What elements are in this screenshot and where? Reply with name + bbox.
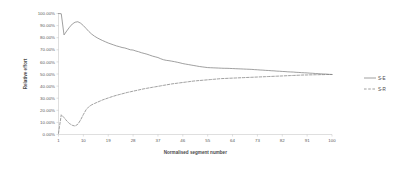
x-tick-label: 10 <box>81 138 86 143</box>
chart-legend: S-ES-R <box>364 76 387 92</box>
y-tick-label: 40.00% <box>40 84 55 89</box>
x-tick-label: 28 <box>131 138 136 143</box>
y-tick-label: 50.00% <box>40 72 55 77</box>
x-tick-label: 1 <box>57 138 60 143</box>
y-tick-label: 100.00% <box>38 11 55 16</box>
chart-svg: 0.00%10.00%20.00%30.00%40.00%50.00%60.00… <box>0 0 403 169</box>
y-tick-label: 0.00% <box>43 132 56 137</box>
series-line-s-e <box>59 14 333 75</box>
x-tick-label: 19 <box>106 138 111 143</box>
y-tick-label: 70.00% <box>40 47 55 52</box>
x-axis-tick-labels: 110192837465564738291100 <box>57 135 336 144</box>
y-axis-tick-labels: 0.00%10.00%20.00%30.00%40.00%50.00%60.00… <box>38 11 59 137</box>
x-tick-label: 46 <box>180 138 185 143</box>
x-tick-label: 91 <box>305 138 310 143</box>
y-axis-title: Relative effort <box>23 58 28 89</box>
x-tick-label: 73 <box>255 138 260 143</box>
y-tick-label: 10.00% <box>40 120 55 125</box>
legend-label-s-e: S-E <box>378 76 386 81</box>
y-tick-label: 20.00% <box>40 108 55 113</box>
x-tick-label: 37 <box>156 138 161 143</box>
plot-area: 0.00%10.00%20.00%30.00%40.00%50.00%60.00… <box>38 11 337 143</box>
chart-container: 0.00%10.00%20.00%30.00%40.00%50.00%60.00… <box>0 0 403 169</box>
y-tick-label: 80.00% <box>40 35 55 40</box>
data-series-group <box>59 14 333 134</box>
x-tick-label: 55 <box>205 138 210 143</box>
x-tick-label: 64 <box>230 138 235 143</box>
x-tick-label: 82 <box>280 138 285 143</box>
y-tick-label: 60.00% <box>40 60 55 65</box>
series-line-s-r <box>59 74 333 133</box>
x-tick-label: 100 <box>328 138 336 143</box>
legend-label-s-r: S-R <box>378 87 387 92</box>
y-tick-label: 30.00% <box>40 96 55 101</box>
x-axis-title: Normalised segment number <box>164 150 228 155</box>
y-tick-label: 90.00% <box>40 23 55 28</box>
